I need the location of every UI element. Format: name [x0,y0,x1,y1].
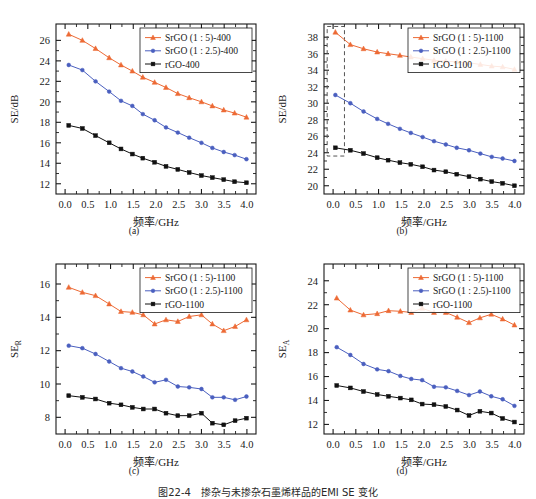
data-marker [432,403,436,407]
data-marker [386,158,390,162]
data-marker [245,416,249,420]
y-tick-label: 14 [40,312,51,323]
data-marker [153,407,157,411]
series-line [335,95,514,161]
y-tick-label: 12 [40,345,51,356]
subplot-b: 202224262830323436380.00.51.01.52.02.53.… [268,8,536,248]
x-tick-label: 0.0 [59,199,72,210]
data-marker [130,152,134,156]
x-tick-label: 2.0 [149,199,162,210]
data-marker [455,389,459,393]
data-marker [210,421,214,425]
legend-label: SrGO (1 : 2.5)-1100 [165,285,243,297]
data-marker [375,367,379,371]
data-marker [94,352,98,356]
x-tick-label: 3.0 [195,199,208,210]
series-3 [67,123,249,184]
data-marker [419,62,423,66]
y-tick-label: 24 [308,276,319,287]
x-tick-label: 2.0 [149,439,162,450]
data-marker [222,395,226,399]
x-tick-label: 2.5 [440,439,453,450]
y-tick-label: 28 [308,115,319,126]
data-marker [455,172,459,176]
data-marker [421,135,425,139]
x-tick-label: 2.0 [417,439,430,450]
x-tick-label: 0.0 [59,439,72,450]
data-marker [233,153,237,157]
data-marker [334,295,339,300]
y-axis-title: SE/dB [276,95,288,124]
legend-marker [419,289,423,293]
data-marker [176,414,180,418]
x-tick-label: 0.5 [81,199,94,210]
legend-marker [151,289,155,293]
data-marker [233,398,237,402]
data-marker [419,49,423,53]
legend-marker [151,49,155,53]
subplot-a: 12141618202224260.00.51.01.52.02.53.03.5… [0,8,268,248]
data-marker [362,362,366,366]
series-line [337,347,515,406]
x-tick-label: 4.0 [240,439,253,450]
data-marker [153,380,157,384]
data-marker [333,146,337,150]
y-tick-label: 12 [40,179,51,190]
data-marker [94,397,98,401]
data-marker [107,55,112,60]
x-tick-label: 0.5 [349,439,362,450]
data-marker [164,126,168,130]
data-marker [490,155,494,159]
legend-marker [419,62,423,66]
legend-label: rGO-1100 [165,299,204,310]
series-3 [335,384,517,424]
data-marker [119,403,123,407]
data-marker [489,394,493,398]
y-tick-label: 16 [40,138,51,149]
x-tick-label: 0.5 [81,439,94,450]
x-tick-label: 3.0 [463,199,476,210]
data-marker [107,141,111,145]
data-marker [176,385,180,389]
data-marker [432,168,436,172]
y-tick-label: 24 [40,56,51,67]
data-marker [119,147,123,151]
data-marker [478,390,482,394]
data-marker [467,148,471,152]
legend-marker [151,302,155,306]
legend-label: SrGO (1 : 5)-1100 [433,272,503,284]
y-tick-label: 18 [40,117,51,128]
data-marker [421,165,425,169]
x-tick-label: 0.0 [327,199,340,210]
data-marker [164,378,168,382]
data-marker [335,345,339,349]
data-marker [107,301,112,306]
data-marker [245,181,249,185]
data-marker [141,112,145,116]
data-marker [467,414,471,418]
y-axis-title: SEA [276,339,291,358]
data-marker [151,62,155,66]
data-marker [455,146,459,150]
data-marker [501,397,505,401]
y-axis-title: SE/dB [8,95,20,124]
y-tick-label: 36 [308,49,319,60]
data-marker [409,377,413,381]
x-tick-label: 0.5 [349,199,362,210]
x-tick-label: 3.5 [486,199,499,210]
subplot-d: 121416182022240.00.51.01.52.02.53.03.54.… [268,248,536,488]
legend-label: SrGO (1 : 2.5)-400 [165,45,238,57]
data-marker [222,150,226,154]
x-tick-label: 4.0 [508,199,521,210]
data-marker [187,385,191,389]
data-marker [187,414,191,418]
y-tick-label: 30 [308,98,319,109]
y-tick-label: 20 [308,323,319,334]
data-marker [375,156,379,160]
annotation-dashed-box [327,26,344,156]
emi-shielding-figure: 12141618202224260.00.51.01.52.02.53.03.5… [0,0,536,499]
data-marker [200,141,204,145]
x-tick-label: 1.0 [372,439,385,450]
x-tick-label: 3.5 [218,199,231,210]
legend-marker [419,302,423,306]
